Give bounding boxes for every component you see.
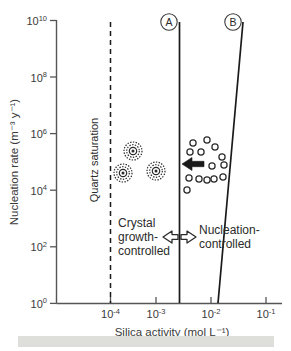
concentric-marker: [124, 142, 142, 160]
data-point: [209, 163, 215, 169]
y-tick-label-10e0: 100: [31, 296, 47, 310]
quartz-saturation-label: Quartz saturation: [88, 118, 100, 202]
crystal-growth-controlled-annotation: Crystal growth- controlled: [118, 216, 170, 258]
y-tick-label-10e4: 104: [31, 183, 47, 197]
x-tick-label-10e-2: 10-2: [202, 307, 221, 321]
annotation-line: Crystal: [118, 216, 155, 230]
annotation-line: growth-: [118, 230, 158, 244]
line-b-label: B: [229, 16, 236, 28]
data-point: [220, 174, 226, 180]
y-axis-ticks: [50, 21, 57, 304]
y-tick-label-10e6: 106: [31, 127, 47, 141]
arrow-left-filled-icon: [182, 158, 204, 171]
data-point: [198, 149, 204, 155]
y-axis-title: Nucleation rate (m⁻³ y⁻¹): [8, 99, 20, 226]
data-point: [196, 176, 202, 182]
figure-container: 1010 108 106 104 102 100: [0, 0, 291, 351]
data-point: [186, 175, 192, 181]
y-tick-label-10e10: 1010: [26, 14, 47, 28]
line-b-badge: B: [225, 14, 241, 30]
annotation-line: controlled: [118, 244, 170, 258]
x-axis-tick-labels: 10-4 10-3 10-2 10-1: [101, 307, 275, 321]
line-a-badge: A: [161, 14, 177, 30]
nucleation-rate-vs-silica-activity-chart: 1010 108 106 104 102 100: [0, 0, 291, 351]
data-point: [190, 140, 196, 146]
arrow-left-hollow-icon: [163, 231, 178, 243]
y-axis-tick-labels: 1010 108 106 104 102 100: [26, 14, 47, 310]
data-point: [204, 177, 210, 183]
data-point: [212, 144, 218, 150]
concentric-marker: [114, 164, 132, 182]
data-point: [187, 149, 193, 155]
concentric-marker-group: [114, 142, 165, 182]
data-point: [221, 162, 227, 168]
bottom-gray-bar: [18, 336, 274, 347]
data-point: [211, 176, 217, 182]
data-point: [204, 137, 210, 143]
concentric-marker: [147, 162, 165, 180]
annotation-line: controlled: [199, 237, 251, 251]
line-a-label: A: [165, 16, 172, 28]
annotation-line: Nucleation-: [199, 223, 260, 237]
x-axis-ticks: [111, 297, 267, 304]
arrow-right-hollow-icon: [181, 231, 196, 243]
data-point: [184, 187, 190, 193]
x-tick-label-10e-3: 10-3: [147, 307, 166, 321]
x-tick-label-10e-1: 10-1: [257, 307, 276, 321]
nucleation-controlled-annotation: Nucleation- controlled: [199, 223, 260, 251]
data-point: [219, 154, 225, 160]
x-tick-label-10e-4: 10-4: [101, 307, 120, 321]
y-tick-label-10e2: 102: [31, 240, 47, 254]
y-tick-label-10e8: 108: [31, 70, 47, 84]
